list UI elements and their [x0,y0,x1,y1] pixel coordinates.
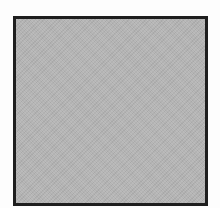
canvas [0,0,220,208]
gray-square-swatch [13,16,208,206]
